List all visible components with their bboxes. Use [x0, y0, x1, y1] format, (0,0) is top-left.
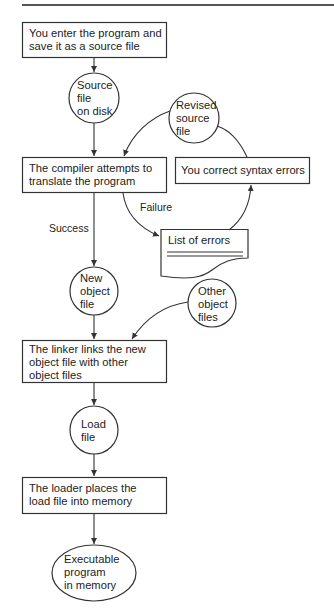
arrow-revised-to-compiler [124, 111, 170, 156]
circle-revised-source-label: Revised source file [176, 99, 216, 138]
circle-load-file-label: Load file [81, 418, 106, 444]
arrow-other-object-to-linker [132, 302, 188, 339]
document-list-of-errors-label: List of errors [168, 234, 230, 247]
flowchart-canvas [0, 0, 334, 613]
box-correct-errors-label: You correct syntax errors [181, 164, 305, 177]
ellipse-executable-label: Executable program in memory [64, 553, 119, 592]
box-enter-program-label: You enter the program and save it as a s… [29, 27, 162, 53]
arrow-errors-to-correct [229, 185, 251, 230]
box-loader-label: The loader places the load file into mem… [29, 482, 137, 508]
arrow-correct-to-revised [217, 126, 247, 157]
box-linker-label: The linker links the new object file wit… [29, 343, 146, 382]
circle-source-file-label: Source file on disk [77, 79, 112, 118]
edge-label-failure: Failure [140, 201, 172, 213]
circle-other-object-label: Other object files [198, 285, 228, 324]
box-compiler-label: The compiler attempts to translate the p… [29, 162, 152, 188]
circle-new-object-label: New object file [80, 272, 110, 311]
arrow-compiler-to-errors [123, 193, 159, 236]
edge-label-success: Success [49, 222, 89, 234]
